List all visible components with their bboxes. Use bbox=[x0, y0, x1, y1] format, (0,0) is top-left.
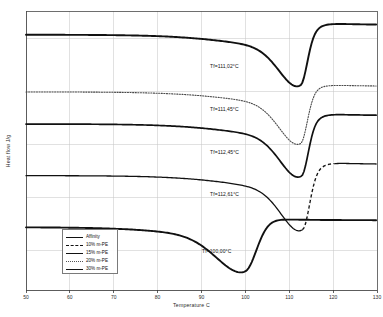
legend-item-15-m-pe[interactable]: 15% m-PE bbox=[66, 249, 114, 257]
annotation-tf-2: Tf=112,45°C bbox=[210, 149, 239, 155]
curve-15-m-pe bbox=[26, 115, 376, 177]
annotation-tf-1: Tf=111,45°C bbox=[210, 106, 239, 112]
x-tick-label-110: 110 bbox=[279, 294, 299, 300]
legend-item-30-m-pe[interactable]: 30% m-PE bbox=[66, 265, 114, 273]
x-tick-label-120: 120 bbox=[323, 294, 343, 300]
annotation-tf-3: Tf=112,61°C bbox=[210, 191, 239, 197]
legend-swatch-icon bbox=[66, 250, 83, 256]
annotation-tf-0: Tf=111,02°C bbox=[210, 63, 239, 69]
legend-label: 10% m-PE bbox=[86, 242, 108, 248]
curve-10-m-pe bbox=[26, 85, 376, 144]
legend-label: 30% m-PE bbox=[86, 266, 108, 272]
annotation-tf-4: Tf=100,00°C bbox=[202, 248, 231, 254]
legend-label: 15% m-PE bbox=[86, 250, 108, 256]
legend-swatch-icon bbox=[66, 234, 83, 240]
x-tick-label-70: 70 bbox=[104, 294, 124, 300]
dsc-thermogram-figure: Temperature C Heat flow J/g 506070809010… bbox=[0, 0, 383, 317]
legend-label: 20% m-PE bbox=[86, 258, 108, 264]
axis-ticks bbox=[26, 290, 377, 293]
chart-plot-area bbox=[0, 0, 383, 317]
legend-label: Affinity bbox=[86, 234, 100, 240]
legend-item-10-m-pe[interactable]: 10% m-PE bbox=[66, 241, 114, 249]
x-tick-label-50: 50 bbox=[16, 294, 36, 300]
legend-swatch-icon bbox=[66, 266, 83, 272]
legend-swatch-icon bbox=[66, 242, 83, 248]
x-tick-label-100: 100 bbox=[235, 294, 255, 300]
chart-legend[interactable]: Affinity10% m-PE15% m-PE20% m-PE30% m-PE bbox=[62, 229, 118, 274]
x-axis-label: Temperature C bbox=[0, 302, 383, 308]
x-tick-label-60: 60 bbox=[60, 294, 80, 300]
x-tick-label-80: 80 bbox=[148, 294, 168, 300]
x-tick-label-90: 90 bbox=[192, 294, 212, 300]
legend-item-affinity[interactable]: Affinity bbox=[66, 233, 114, 241]
legend-item-20-m-pe[interactable]: 20% m-PE bbox=[66, 257, 114, 265]
legend-swatch-icon bbox=[66, 258, 83, 264]
x-tick-label-130: 130 bbox=[367, 294, 383, 300]
y-axis-label: Heat flow J/g bbox=[5, 121, 11, 181]
curve-affinity bbox=[26, 24, 376, 86]
